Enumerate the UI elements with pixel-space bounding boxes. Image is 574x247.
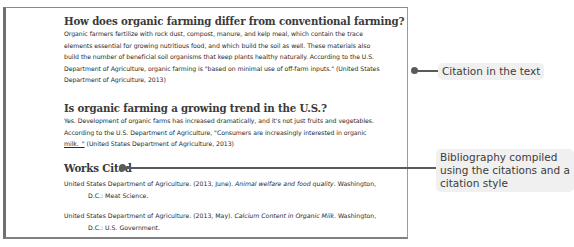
entry-title: Calcium Content in Organic Milk [234,212,334,219]
underlined-text: milk._" [64,140,85,147]
paragraph-line: elements essential for growing nutritiou… [64,40,380,52]
citation-connector-line [416,70,440,72]
paragraph-line: Department of Agriculture, 2013) [64,74,380,86]
paragraph-line: milk._" (United States Department of Agr… [64,138,374,150]
paragraph-line: build the number of beneficial soil orga… [64,51,380,63]
document-page: How does organic farming differ from con… [3,7,408,239]
section-heading-differ: How does organic farming differ from con… [64,15,404,27]
works-cited-entry: United States Department of Agriculture.… [64,178,376,202]
paragraph-line-citation: Department of Agriculture, organic farmi… [64,63,380,75]
callout-bibliography: Bibliography compiled using the citation… [436,149,574,192]
citation-text: (United States Department of Agriculture… [85,140,234,147]
paragraph-line: Organic farmers fertilize with rock dust… [64,28,380,40]
section-paragraph-trend: Yes. Development of organic farms has in… [64,115,374,150]
section-paragraph-differ: Organic farmers fertilize with rock dust… [64,28,380,86]
works-cited-entry: United States Department of Agriculture.… [64,210,376,234]
section-heading-trend: Is organic farming a growing trend in th… [64,102,327,114]
callout-citation-in-text: Citation in the text [438,63,544,80]
works-cited-connector-line [124,167,437,169]
paragraph-line: Yes. Development of organic farms has in… [64,115,374,127]
paragraph-line: According to the U.S. Department of Agri… [64,127,374,139]
entry-title: Animal welfare and food quality [235,180,334,187]
